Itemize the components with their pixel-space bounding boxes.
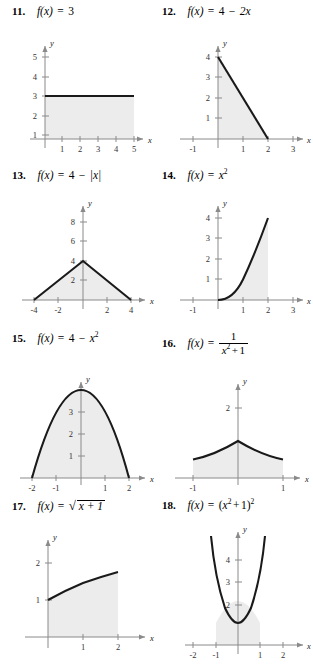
y-tick-label: 1	[69, 451, 73, 461]
x-tick-label: 2	[116, 642, 120, 652]
x-tick-label: 1	[241, 305, 245, 315]
x-axis-label: x	[306, 135, 311, 145]
problem-13-heading: 13. f(x) = 4 − |x|	[12, 170, 101, 182]
exercise-page: 11. f(x) = 3	[0, 0, 313, 670]
x-tick-label: 2	[105, 305, 109, 315]
y-tick-label: 1	[206, 274, 210, 284]
y-tick-label: 1	[33, 130, 37, 140]
y-tick-label: 3	[33, 91, 37, 101]
x-tick-label: 1	[81, 642, 85, 652]
x-tick-label: 2	[266, 144, 270, 154]
equals-sign: =	[56, 332, 66, 344]
y-tick-label: 5	[33, 52, 37, 62]
y-tick-label: 4	[206, 52, 211, 62]
y-tick-label: 4	[33, 72, 38, 82]
x-tick-label: 4	[114, 144, 119, 154]
outer-exponent: 2	[251, 497, 255, 506]
y-tick-label: 1	[36, 595, 40, 605]
x-tick-label: 2	[127, 483, 131, 493]
y-tick-label: 1	[206, 113, 210, 123]
problem-number: 13.	[12, 169, 26, 181]
figure-14: x y -1 1 2 3 1 2 3 4	[155, 188, 313, 318]
function-name: f(x)	[37, 5, 53, 17]
x-tick-label: 1	[258, 650, 262, 660]
y-tick-label: 3	[206, 72, 210, 82]
x-axis-label: x	[304, 474, 309, 484]
x-tick-label: -2	[28, 483, 35, 493]
problem-16-heading: 16. f(x) = 1 x2+1	[162, 331, 248, 358]
equals-sign: =	[206, 499, 216, 511]
y-tick-label: 2	[226, 403, 230, 413]
expression: 3	[68, 5, 74, 17]
problem-number: 14.	[162, 169, 176, 181]
y-axis-label: y	[52, 532, 57, 542]
x-tick-label: 2	[281, 650, 285, 660]
minus-sign: −	[227, 5, 237, 17]
y-tick-label: 2	[226, 600, 230, 610]
x-tick-label: 1	[60, 144, 64, 154]
expression-exponent: 2	[95, 330, 99, 339]
x-tick-label: -4	[30, 305, 38, 315]
radicand: x + 1	[77, 500, 105, 513]
expression-lhs: 4	[69, 169, 75, 181]
equals-sign: =	[56, 169, 66, 181]
x-tick-label: -1	[189, 305, 196, 315]
x-tick-label: -2	[189, 650, 196, 660]
minus-sign: −	[77, 332, 87, 344]
problem-number: 18.	[162, 499, 176, 511]
x-axis-label: x	[306, 641, 311, 651]
square-root: √ x + 1	[69, 500, 105, 513]
y-axis-label: y	[49, 38, 54, 48]
x-axis-label: x	[149, 296, 154, 306]
x-tick-label: -1	[52, 483, 59, 493]
problem-17-heading: 17. f(x) = √ x + 1	[12, 500, 105, 513]
radical-sign-icon: √	[69, 499, 76, 512]
expression-exponent: 2	[224, 167, 228, 176]
x-tick-label: 1	[281, 483, 285, 493]
problem-14-heading: 14. f(x) = x2	[162, 170, 228, 182]
x-axis-label: x	[306, 296, 311, 306]
equals-sign: =	[206, 5, 216, 17]
y-axis-label: y	[87, 198, 92, 208]
y-tick-label: 6	[71, 236, 75, 246]
x-tick-label: -1	[189, 483, 196, 493]
fraction-numerator: 1	[219, 330, 248, 344]
x-tick-label: 5	[132, 144, 136, 154]
function-name: f(x)	[188, 169, 204, 181]
problem-number: 16.	[162, 337, 176, 349]
equals-sign: =	[206, 169, 216, 181]
problem-number: 15.	[12, 332, 26, 344]
problem-12-heading: 12. f(x) = 4 − 2x	[162, 6, 251, 18]
y-tick-label: 3	[226, 577, 230, 587]
expression-lhs: 4	[69, 332, 75, 344]
x-tick-label: 2	[266, 305, 270, 315]
x-tick-label: -1	[212, 650, 219, 660]
problem-11-heading: 11. f(x) = 3	[12, 6, 74, 18]
y-tick-label: 4	[226, 555, 231, 565]
y-tick-label: 3	[69, 407, 73, 417]
equals-sign: =	[56, 500, 66, 512]
y-axis-label: y	[242, 524, 247, 534]
x-tick-label: 1	[103, 483, 107, 493]
y-tick-label: 4	[206, 213, 211, 223]
x-tick-label: 3	[291, 144, 295, 154]
x-axis-label: x	[149, 633, 154, 643]
problem-18-heading: 18. f(x) = (x2+1)2	[162, 500, 254, 512]
fraction: 1 x2+1	[219, 330, 248, 357]
y-tick-label: 8	[71, 217, 75, 227]
y-axis-label: y	[222, 38, 227, 48]
figure-11: x y 1 2 3 4 5 1 2 3 4 5	[0, 26, 160, 151]
expression-rhs: |x|	[90, 169, 101, 181]
y-tick-label: 3	[206, 233, 210, 243]
function-name: f(x)	[188, 5, 204, 17]
figure-17: x y 1 2 1 2	[0, 518, 160, 658]
y-tick-label: 2	[206, 93, 210, 103]
x-axis-label: x	[147, 135, 152, 145]
figure-16: x y -1 1 2	[155, 370, 313, 492]
function-name: f(x)	[38, 169, 54, 181]
x-tick-label: 4	[129, 305, 134, 315]
y-tick-label: 2	[206, 254, 210, 264]
expression-lhs: 4	[219, 5, 225, 17]
figure-12: x y -1 1 2 3 1 2 3 4	[155, 26, 313, 151]
y-tick-label: 2	[33, 111, 37, 121]
